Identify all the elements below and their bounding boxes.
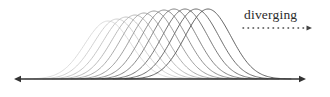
- arrowhead: [299, 76, 306, 83]
- diverging-gaussians-figure: diverging: [0, 0, 330, 97]
- arrowhead: [307, 25, 313, 30]
- horizontal-axis: [14, 76, 306, 83]
- diverging-label: diverging: [244, 6, 297, 23]
- dotted-arrow: [243, 25, 312, 30]
- arrowhead: [14, 76, 21, 83]
